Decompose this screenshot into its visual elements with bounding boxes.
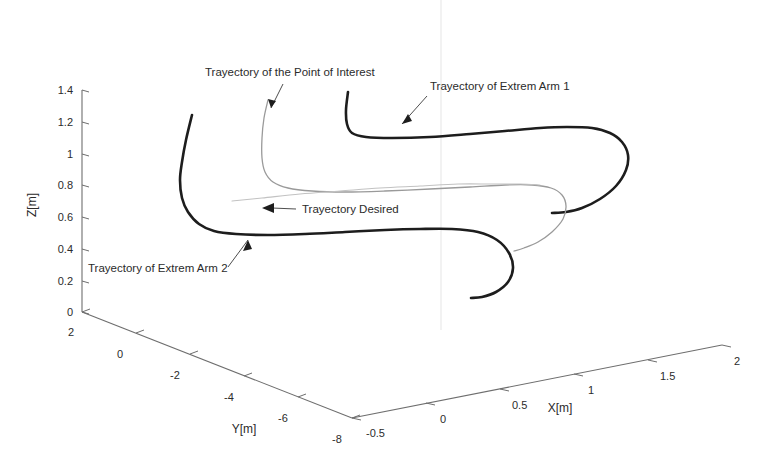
annotation-point-of-interest: Trayectory of the Point of Interest	[205, 66, 375, 108]
y-tick-label: -6	[278, 412, 288, 424]
curve-trayectory-desired	[232, 184, 540, 201]
annotation-label: Trayectory of Extrem Arm 2	[88, 262, 228, 274]
annotation-label: Trayectory Desired	[302, 203, 399, 215]
y-tick-label: -4	[224, 391, 234, 403]
annotation-extrem-arm-2: Trayectory of Extrem Arm 2	[88, 240, 252, 274]
trajectory-3d-figure: 1.4 1.2 1 0.8 0.6 0.4 0.2 0 Z[m] 2 0 -2 …	[0, 0, 772, 454]
annotation-label: Trayectory of Extrem Arm 1	[430, 80, 570, 92]
axis-y: 2 0 -2 -4 -6 -8 Y[m]	[68, 309, 360, 445]
x-tick-label: 0	[440, 413, 446, 425]
annotation-extrem-arm-1: Trayectory of Extrem Arm 1	[402, 80, 570, 124]
axis-x: -0.5 0 0.5 1 1.5 2 X[m]	[352, 345, 740, 439]
z-tick-label: 1	[67, 148, 73, 160]
x-axis-title: X[m]	[548, 401, 573, 415]
z-axis-title: Z[m]	[25, 193, 39, 217]
x-tick-label: 2	[734, 355, 740, 367]
y-tick-label: 2	[68, 326, 74, 338]
x-tick-label: 1	[588, 384, 594, 396]
axis-z: 1.4 1.2 1 0.8 0.6 0.4 0.2 0 Z[m]	[25, 84, 89, 318]
z-tick-label: 0.2	[58, 275, 73, 287]
y-tick-label: -8	[332, 433, 342, 445]
z-tick-label: 1.2	[58, 116, 73, 128]
x-tick-label: 0.5	[512, 399, 527, 411]
z-tick-label: 0.4	[58, 243, 73, 255]
z-tick-label: 0.8	[58, 179, 73, 191]
y-tick-label: -2	[170, 369, 180, 381]
z-tick-label: 0.6	[58, 211, 73, 223]
annotation-trayectory-desired: Trayectory Desired	[262, 203, 399, 215]
annotation-label: Trayectory of the Point of Interest	[205, 66, 375, 78]
y-tick-label: 0	[117, 348, 123, 360]
y-axis-title: Y[m]	[232, 422, 257, 436]
x-tick-label: 1.5	[660, 370, 675, 382]
x-tick-label: -0.5	[366, 427, 385, 439]
curve-extrem-arm-1	[346, 92, 628, 213]
z-tick-label: 1.4	[58, 84, 73, 96]
z-tick-label: 0	[67, 306, 73, 318]
